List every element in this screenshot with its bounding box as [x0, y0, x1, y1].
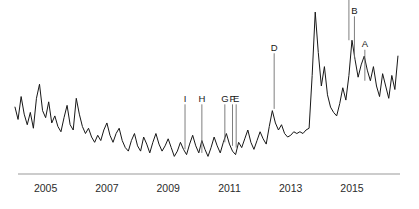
x-tick-label-2011: 2011: [218, 182, 241, 194]
annotation-label-D: D: [271, 42, 278, 53]
annotation-label-H: H: [198, 93, 205, 104]
annotation-label-F: F: [230, 93, 236, 104]
x-tick-label-2015: 2015: [340, 182, 364, 194]
annotation-label-I: I: [184, 93, 187, 104]
chart-background: [0, 0, 419, 209]
chart-container: 200520072009201120132015 ABCDEFGHI: [0, 0, 419, 209]
annotation-label-G: G: [221, 93, 228, 104]
annotation-label-A: A: [362, 38, 369, 49]
x-tick-label-2013: 2013: [279, 182, 303, 194]
line-chart: 200520072009201120132015 ABCDEFGHI: [0, 0, 419, 209]
x-tick-label-2005: 2005: [34, 182, 58, 194]
annotation-label-B: B: [351, 5, 357, 16]
x-tick-label-2009: 2009: [156, 182, 180, 194]
x-tick-label-2007: 2007: [95, 182, 119, 194]
